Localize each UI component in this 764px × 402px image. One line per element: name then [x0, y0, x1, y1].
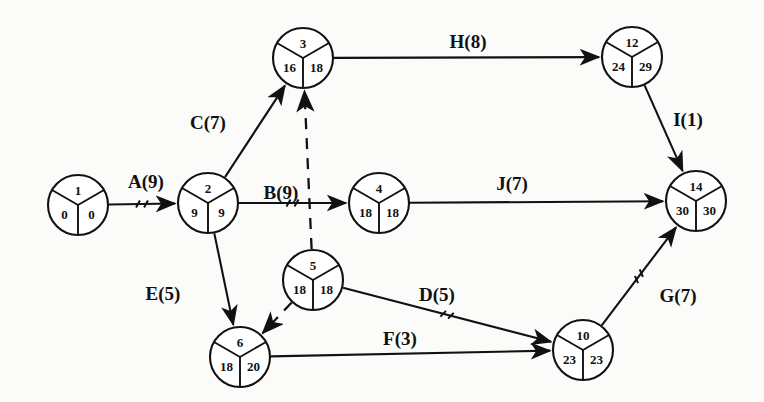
- node-3[interactable]: 31618: [273, 28, 333, 88]
- node-early-14: 30: [676, 203, 689, 218]
- edge-label-F: F(3): [383, 328, 417, 350]
- edge-line-J: [410, 201, 663, 203]
- node-1[interactable]: 100: [48, 175, 108, 235]
- node-early-12: 24: [612, 59, 626, 74]
- node-id-5: 5: [310, 258, 317, 273]
- node-id-12: 12: [626, 35, 639, 50]
- edge-J[interactable]: [410, 201, 663, 203]
- edge-E[interactable]: [214, 233, 233, 324]
- edge-G[interactable]: [602, 227, 676, 325]
- node-id-14: 14: [690, 179, 704, 194]
- edge-line-dummy-5-3: [304, 91, 311, 249]
- edge-label-E: E(5): [146, 283, 181, 305]
- node-late-6: 20: [247, 359, 260, 374]
- node-10[interactable]: 102323: [553, 320, 613, 380]
- edge-label-H: H(8): [450, 31, 487, 53]
- node-id-3: 3: [300, 36, 307, 51]
- edge-line-H: [334, 57, 599, 58]
- node-id-10: 10: [577, 328, 590, 343]
- node-6[interactable]: 61820: [210, 327, 270, 387]
- node-early-5: 18: [293, 282, 307, 297]
- edge-line-E: [214, 233, 233, 324]
- node-early-6: 18: [220, 359, 234, 374]
- edge-dummy-5-3[interactable]: [304, 91, 311, 249]
- edge-H[interactable]: [334, 57, 599, 58]
- edge-label-B: B(9): [264, 182, 299, 204]
- edge-label-I: I(1): [673, 109, 703, 131]
- node-5[interactable]: 51818: [283, 250, 343, 310]
- node-id-6: 6: [237, 335, 244, 350]
- edge-label-J: J(7): [496, 173, 528, 195]
- edge-label-G: G(7): [660, 285, 697, 307]
- edge-line-C: [225, 86, 285, 177]
- node-late-14: 30: [703, 203, 716, 218]
- node-early-4: 18: [359, 205, 373, 220]
- node-id-1: 1: [75, 183, 82, 198]
- edge-line-G: [602, 227, 676, 325]
- node-4[interactable]: 41818: [349, 173, 409, 233]
- node-late-1: 0: [88, 207, 95, 222]
- node-late-10: 23: [590, 352, 604, 367]
- node-late-4: 18: [386, 205, 400, 220]
- edge-F[interactable]: [271, 351, 550, 357]
- edge-line-dummy-5-6: [263, 302, 292, 333]
- node-id-2: 2: [205, 181, 212, 196]
- node-early-3: 16: [283, 60, 297, 75]
- node-late-12: 29: [639, 59, 653, 74]
- edge-label-D: D(5): [419, 284, 455, 306]
- edge-A[interactable]: [109, 200, 175, 207]
- network-diagram-canvas: 1002993161841818518186182010232312242914…: [0, 0, 764, 402]
- node-early-2: 9: [191, 205, 198, 220]
- edge-C[interactable]: [225, 86, 285, 177]
- node-12[interactable]: 122429: [602, 27, 662, 87]
- edge-line-A: [109, 204, 175, 205]
- node-id-4: 4: [376, 181, 383, 196]
- edge-label-A: A(9): [128, 171, 164, 193]
- node-late-5: 18: [320, 282, 334, 297]
- network-diagram-svg: 1002993161841818518186182010232312242914…: [0, 0, 764, 402]
- edge-dummy-5-6[interactable]: [263, 302, 292, 333]
- node-2[interactable]: 299: [178, 173, 238, 233]
- node-14[interactable]: 143030: [666, 171, 726, 231]
- node-late-2: 9: [218, 205, 225, 220]
- node-late-3: 18: [310, 60, 324, 75]
- edge-label-C: C(7): [190, 112, 226, 134]
- node-early-10: 23: [563, 352, 577, 367]
- node-early-1: 0: [61, 207, 68, 222]
- edge-line-F: [271, 351, 550, 357]
